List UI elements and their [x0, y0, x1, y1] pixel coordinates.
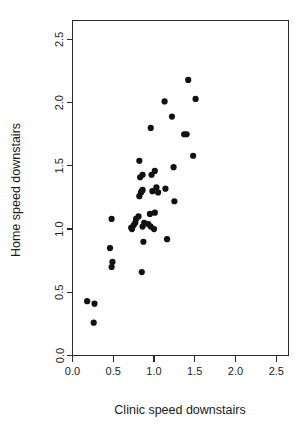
data-point [148, 125, 154, 131]
x-tick-label: 2.5 [269, 365, 284, 377]
data-point [171, 198, 177, 204]
data-point [162, 98, 168, 104]
y-tick-label: 2.0 [54, 95, 66, 110]
data-point [136, 158, 142, 164]
data-point [109, 264, 115, 270]
data-point [185, 77, 191, 83]
data-point [107, 245, 113, 251]
data-point [151, 226, 157, 232]
scatter-plot-figure: 0.00.51.01.52.02.5 0.00.51.01.52.02.5 Cl… [0, 0, 308, 431]
x-tick-label: 1.5 [187, 365, 202, 377]
data-point [169, 113, 175, 119]
data-point [190, 153, 196, 159]
x-axis-title: Clinic speed downstairs [114, 403, 245, 417]
data-point [140, 239, 146, 245]
x-axis-ticks: 0.00.51.01.52.02.5 [65, 356, 284, 377]
data-point [162, 186, 168, 192]
y-tick-label: 2.5 [54, 32, 66, 47]
plot-canvas: 0.00.51.01.52.02.5 0.00.51.01.52.02.5 Cl… [0, 0, 308, 431]
data-point [140, 172, 146, 178]
x-tick-label: 2.0 [228, 365, 243, 377]
data-point [140, 187, 146, 193]
data-point [84, 298, 90, 304]
y-tick-label: 0.5 [54, 285, 66, 300]
y-axis-ticks: 0.00.51.01.52.02.5 [54, 32, 73, 363]
data-point [135, 213, 141, 219]
y-tick-label: 0.0 [54, 348, 66, 363]
data-point [152, 168, 158, 174]
y-tick-label: 1.5 [54, 158, 66, 173]
y-tick-label: 1.0 [54, 221, 66, 236]
x-tick-label: 0.5 [106, 365, 121, 377]
data-point [170, 164, 176, 170]
plot-frame [73, 21, 289, 356]
data-points-layer [84, 77, 199, 326]
data-point [91, 301, 97, 307]
data-point [109, 216, 115, 222]
data-point [192, 96, 198, 102]
y-axis-title: Home speed downstairs [9, 123, 23, 257]
data-point [91, 320, 97, 326]
x-tick-label: 0.0 [65, 365, 80, 377]
data-point [155, 189, 161, 195]
data-point [184, 131, 190, 137]
data-point [152, 210, 158, 216]
data-point [164, 236, 170, 242]
x-tick-label: 1.0 [146, 365, 161, 377]
data-point [139, 269, 145, 275]
